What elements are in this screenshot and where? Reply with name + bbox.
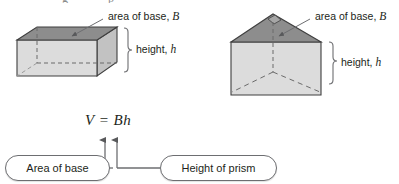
volume-formula: V = Bh <box>85 112 131 129</box>
callout-area-of-base[interactable]: Area of base <box>5 155 110 181</box>
figure-canvas: gp <box>0 0 399 184</box>
callout-height-of-prism[interactable]: Height of prism <box>160 155 277 181</box>
label-area-of-base-left: area of base, B <box>108 11 179 23</box>
height-brace-right <box>329 42 337 84</box>
label-area-of-base-right: area of base, B <box>315 11 386 23</box>
callout-area-of-base-label: Area of base <box>26 162 88 174</box>
callout-height-of-prism-label: Height of prism <box>182 162 256 174</box>
prism-front-face <box>17 40 97 76</box>
label-height-right: height, h <box>341 57 381 69</box>
rectangular-prism <box>17 27 117 76</box>
label-height-left: height, h <box>136 44 176 56</box>
height-brace-left <box>124 28 132 72</box>
triangular-prism <box>231 14 321 95</box>
